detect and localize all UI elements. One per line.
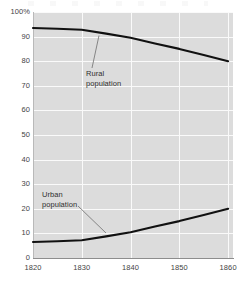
gridline-y-40 [33, 160, 233, 161]
gridline-x-1860 [228, 12, 229, 258]
x-tick-label-1830: 1830 [62, 263, 102, 272]
x-axis-line [33, 258, 234, 259]
gridline-y-80 [33, 61, 233, 62]
x-tick-label-1850: 1850 [159, 263, 199, 272]
y-tick-label-40: 40 [0, 156, 30, 164]
y-axis-line [33, 12, 34, 259]
y-tick-label-20: 20 [0, 205, 30, 213]
y-tick-label-80: 80 [0, 57, 30, 65]
gridline-y-100 [33, 12, 233, 13]
x-tick-label-1820: 1820 [13, 263, 53, 272]
rural-population-annotation: Rural population [86, 69, 121, 88]
plot-area [33, 12, 233, 258]
y-tick-label-90: 90 [0, 33, 30, 41]
population-line-chart: 0102030405060708090100% 1820183018401850… [0, 0, 245, 284]
x-tick-label-1840: 1840 [111, 263, 151, 272]
urban-population-annotation: Urban population [42, 190, 77, 209]
gridline-y-60 [33, 110, 233, 111]
gridline-y-70 [33, 86, 233, 87]
x-tick-label-1860: 1860 [208, 263, 245, 272]
y-tick-label-70: 70 [0, 82, 30, 90]
gridline-y-90 [33, 37, 233, 38]
y-tick-label-100: 100% [0, 8, 30, 16]
gridline-y-10 [33, 233, 233, 234]
y-axis-tick-labels: 0102030405060708090100% [0, 0, 30, 284]
y-tick-label-60: 60 [0, 106, 30, 114]
y-tick-label-0: 0 [0, 254, 30, 262]
gridline-y-50 [33, 135, 233, 136]
y-tick-label-50: 50 [0, 131, 30, 139]
scan-artifact [28, 1, 208, 6]
y-tick-label-10: 10 [0, 229, 30, 237]
gridline-x-1850 [179, 12, 180, 258]
gridline-y-30 [33, 184, 233, 185]
gridline-x-1830 [82, 12, 83, 258]
gridline-x-1840 [131, 12, 132, 258]
y-tick-label-30: 30 [0, 180, 30, 188]
